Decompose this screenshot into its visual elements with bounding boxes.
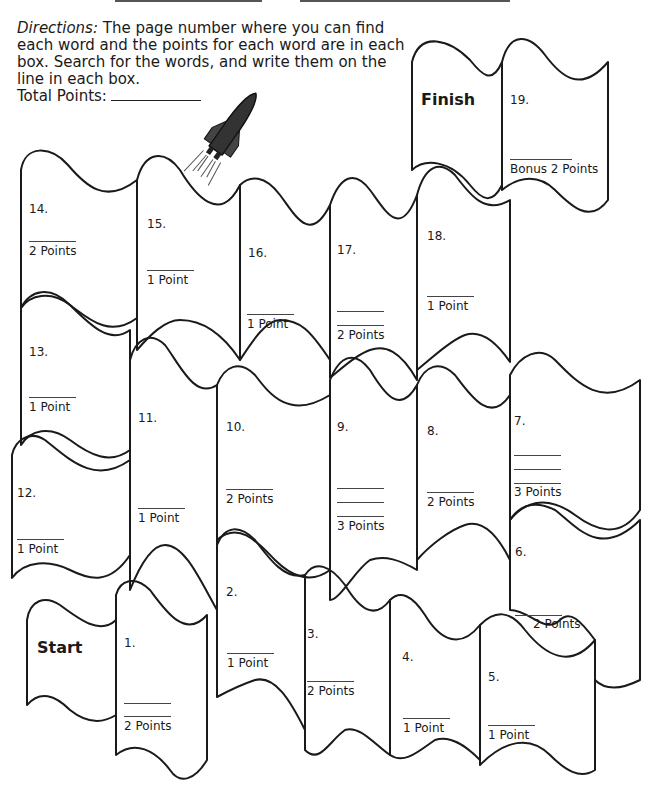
box-13-points: 1 Point <box>29 400 70 414</box>
box-14-shape <box>21 151 137 327</box>
box-15-answer-line[interactable] <box>147 270 194 271</box>
box-11-answer-line[interactable] <box>138 508 185 509</box>
box-2-number: 2. <box>226 585 237 599</box>
game-board <box>0 0 650 796</box>
box-1-answer-line-1[interactable] <box>124 703 171 704</box>
box-8-number: 8. <box>427 424 438 438</box>
box-17-shape <box>330 178 417 380</box>
box-9-number: 9. <box>337 420 348 434</box>
box-19-points: Bonus 2 Points <box>510 162 598 176</box>
box-11-shape <box>130 338 217 610</box>
start-label: Start <box>37 638 83 657</box>
box-5-shape <box>480 614 595 774</box>
box-19-number: 19. <box>510 93 529 107</box>
box-5-number: 5. <box>488 670 499 684</box>
box-1-answer-line-2[interactable] <box>124 716 171 717</box>
box-12-number: 12. <box>17 486 36 500</box>
box-7-answer-line-1[interactable] <box>514 455 561 456</box>
box-3-number: 3. <box>307 627 318 641</box>
box-1-number: 1. <box>124 636 135 650</box>
box-8-shape <box>417 366 510 560</box>
box-9-answer-line-2[interactable] <box>337 502 384 503</box>
box-14-answer-line[interactable] <box>29 241 76 242</box>
box-5-points: 1 Point <box>488 728 529 742</box>
box-2-points: 1 Point <box>227 656 268 670</box>
box-12-answer-line[interactable] <box>17 539 64 540</box>
box-15-shape <box>137 156 240 360</box>
box-3-points: 2 Points <box>307 684 355 698</box>
box-13-answer-line[interactable] <box>29 397 76 398</box>
box-4-number: 4. <box>402 650 413 664</box>
box-18-number: 18. <box>427 229 446 243</box>
box-5-answer-line[interactable] <box>488 725 535 726</box>
box-9-shape <box>330 358 417 600</box>
rocket-shuttle-icon <box>182 84 268 188</box>
box-17-number: 17. <box>337 243 356 257</box>
box-17-points: 2 Points <box>337 328 385 342</box>
box-18-shape <box>417 167 510 370</box>
box-3-answer-line[interactable] <box>307 681 354 682</box>
box-1-points: 2 Points <box>124 719 172 733</box>
box-6-answer-line[interactable] <box>515 615 562 616</box>
box-11-points: 1 Point <box>138 511 179 525</box>
box-6-points: 2 Points <box>533 617 581 631</box>
box-6-shape <box>510 505 640 688</box>
box-10-points: 2 Points <box>226 492 274 506</box>
box-9-answer-line-1[interactable] <box>337 488 384 489</box>
box-7-points: 3 Points <box>514 485 562 499</box>
box-9-points: 3 Points <box>337 519 385 533</box>
box-18-answer-line[interactable] <box>427 296 474 297</box>
box-17-answer-line-1[interactable] <box>337 311 384 312</box>
box-16-shape <box>240 178 330 360</box>
box-10-answer-line[interactable] <box>226 489 273 490</box>
box-7-number: 7. <box>514 414 525 428</box>
box-4-points: 1 Point <box>403 721 444 735</box>
box-16-points: 1 Point <box>247 317 288 331</box>
box-15-points: 1 Point <box>147 273 188 287</box>
box-12-points: 1 Point <box>17 542 58 556</box>
box-18-points: 1 Point <box>427 299 468 313</box>
box-14-number: 14. <box>29 202 48 216</box>
box-17-answer-line-2[interactable] <box>337 325 384 326</box>
box-8-points: 2 Points <box>427 495 475 509</box>
box-14-points: 2 Points <box>29 244 77 258</box>
box-4-shape <box>390 595 480 760</box>
box-13-shape <box>21 292 130 457</box>
box-7-answer-line-2[interactable] <box>514 469 561 470</box>
box-6-number: 6. <box>515 545 526 559</box>
box-4-answer-line[interactable] <box>403 718 450 719</box>
box-7-answer-line-3[interactable] <box>514 483 561 484</box>
box-16-number: 16. <box>248 246 267 260</box>
box-8-answer-line[interactable] <box>427 492 474 493</box>
box-1-shape <box>116 581 207 779</box>
box-2-shape <box>217 529 305 730</box>
box-10-shape <box>217 366 330 577</box>
box-11-number: 11. <box>138 411 157 425</box>
box-2-answer-line[interactable] <box>227 653 274 654</box>
box-13-number: 13. <box>29 345 48 359</box>
box-16-answer-line[interactable] <box>247 314 294 315</box>
box-19-shape <box>502 39 608 212</box>
box-15-number: 15. <box>147 217 166 231</box>
box-10-number: 10. <box>226 420 245 434</box>
finish-label: Finish <box>421 90 475 109</box>
box-9-answer-line-3[interactable] <box>337 516 384 517</box>
box-3-shape <box>305 566 390 755</box>
box-19-answer-line[interactable] <box>510 159 572 160</box>
box-7-shape <box>510 353 640 530</box>
start-banner <box>27 600 116 721</box>
